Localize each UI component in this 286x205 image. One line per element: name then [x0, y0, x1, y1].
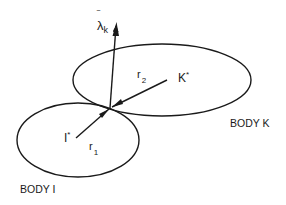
i-center-label: I* — [64, 130, 70, 145]
body-k-label: BODY K — [230, 117, 270, 129]
r1-label: r1 — [89, 140, 99, 157]
lambda-vector-arrow — [110, 26, 116, 108]
k-center-label: K* — [178, 70, 189, 85]
lambda-arrowhead-icon — [113, 22, 120, 36]
lambda-label: λk — [97, 18, 109, 35]
r2-arrowhead-icon — [112, 99, 123, 107]
body-i-ellipse — [17, 103, 139, 177]
body-i-label: BODY I — [20, 183, 55, 195]
r2-label: r2 — [137, 68, 147, 85]
contact-diagram: λk ‾ r2 K* I* r1 BODY K BODY I — [0, 0, 286, 205]
